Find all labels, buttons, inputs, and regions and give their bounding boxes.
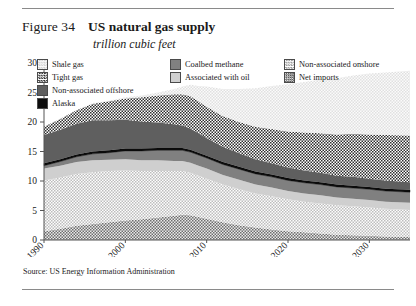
legend-swatch-non-associated-offshore	[37, 85, 48, 96]
figure-subtitle: trillion cubic feet	[93, 37, 176, 52]
legend-label: Alaska	[52, 98, 75, 109]
x-axis-tick-label: 2020	[269, 240, 290, 257]
x-axis-tick-label: 2000	[106, 240, 127, 257]
legend-column-1: Shale gasTight gasNon-associated offshor…	[37, 59, 133, 111]
legend-swatch-non-associated-onshore	[284, 59, 295, 70]
figure-header: Figure 34 US natural gas supply trillion…	[22, 19, 402, 37]
legend-column-3: Non-associated onshoreNet imports	[284, 59, 379, 85]
legend-item[interactable]: Non-associated onshore	[284, 59, 379, 70]
legend-item[interactable]: Shale gas	[37, 59, 133, 70]
y-axis-tick-label: 25	[28, 88, 38, 98]
legend-item[interactable]: Net imports	[284, 72, 379, 83]
x-axis-tick-label: 1990	[25, 240, 46, 257]
legend-label: Shale gas	[52, 59, 84, 70]
legend-item[interactable]: Associated with oil	[170, 72, 250, 83]
legend-label: Tight gas	[52, 72, 83, 83]
y-axis-tick-label: 10	[28, 176, 38, 186]
legend-swatch-alaska	[37, 98, 48, 109]
figure-number: Figure 34	[22, 19, 75, 35]
legend-label: Associated with oil	[185, 72, 250, 83]
y-axis-tick-label: 5	[32, 206, 37, 216]
legend-item[interactable]: Alaska	[37, 98, 133, 109]
legend-label: Non-associated onshore	[299, 59, 379, 70]
legend-column-2: Coalbed methaneAssociated with oil	[170, 59, 250, 85]
legend-label: Non-associated offshore	[52, 85, 133, 96]
x-axis-tick-label: 2030	[350, 240, 371, 257]
bottom-divider-rule	[22, 289, 394, 290]
legend-swatch-shale-gas	[37, 59, 48, 70]
top-divider-rule	[22, 8, 394, 9]
y-axis-tick-label: 20	[28, 117, 38, 127]
legend-label: Net imports	[299, 72, 339, 83]
y-axis-tick-label: 30	[28, 58, 38, 68]
legend-item[interactable]: Tight gas	[37, 72, 133, 83]
legend-label: Coalbed methane	[185, 59, 243, 70]
legend-swatch-associated-with-oil	[170, 72, 181, 83]
page-title: US natural gas supply	[88, 19, 215, 35]
legend-item[interactable]: Coalbed methane	[170, 59, 250, 70]
legend-swatch-tight-gas	[37, 72, 48, 83]
legend-swatch-net-imports	[284, 72, 295, 83]
y-axis-tick-label: 15	[28, 147, 38, 157]
legend-item[interactable]: Non-associated offshore	[37, 85, 133, 96]
source-note: Source: US Energy Information Administra…	[23, 267, 175, 276]
x-axis-tick-label: 2010	[188, 240, 209, 257]
legend-swatch-coalbed-methane	[170, 59, 181, 70]
